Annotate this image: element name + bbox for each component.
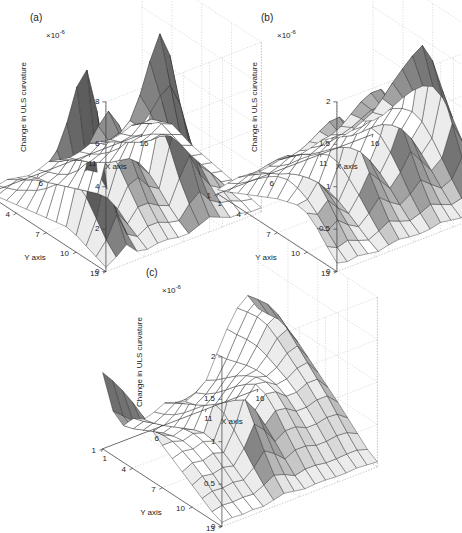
panel-c-ytick: 1: [92, 446, 96, 455]
panel-c-ztick: 1.5: [204, 394, 215, 403]
panel-b-ztick: 2: [326, 97, 330, 106]
panel-a-xtick: 11: [88, 159, 96, 168]
panel-a-xtick: 16: [140, 139, 149, 148]
panel-a-ytick: 13: [90, 269, 99, 278]
panel-c-ytick: 10: [176, 504, 185, 513]
panel-a: (a) ×10-6 Change in ULS curvature 024681…: [0, 0, 231, 232]
panel-c-yaxis-label: Y axis: [140, 508, 162, 517]
panel-b-exponent: ×10-6: [277, 29, 296, 40]
panel-c-ytick: 13: [206, 524, 215, 533]
panel-b-ztick: 1.5: [319, 139, 330, 148]
panel-c-label: (c): [146, 267, 158, 278]
panel-c-xtick: 6: [154, 434, 158, 443]
exponent-base: ×10: [162, 286, 176, 295]
panel-b-xtick: 16: [371, 139, 380, 148]
panel-a-ztick: 4: [95, 182, 99, 191]
panel-b-ytick: 1: [207, 191, 211, 200]
exponent-power: -6: [60, 29, 65, 35]
panel-a-ztick: 2: [95, 224, 99, 233]
panel-a-ztick: 8: [95, 97, 99, 106]
panel-b: (b) ×10-6 Change in ULS curvature 00.511…: [231, 0, 462, 232]
panel-b-ztick: 0.5: [319, 224, 330, 233]
panel-a-ytick: 4: [5, 210, 9, 219]
panel-c-ytick: 7: [151, 485, 155, 494]
panel-a-zaxis-label: Change in ULS curvature: [19, 62, 28, 152]
exponent-power: -6: [291, 29, 296, 35]
panel-b-label: (b): [261, 12, 273, 23]
panel-a-label: (a): [30, 12, 42, 23]
panel-a-ytick: 7: [35, 230, 39, 239]
panel-a-yaxis-label: Y axis: [24, 253, 46, 262]
panel-b-zaxis-label: Change in ULS curvature: [250, 62, 259, 152]
panel-c-ztick: 2: [211, 352, 215, 361]
exponent-base: ×10: [46, 31, 60, 40]
panel-c-ztick: 1: [211, 437, 215, 446]
panel-c-plot: [116, 255, 347, 487]
exponent-base: ×10: [277, 31, 291, 40]
panel-b-xtick: 11: [319, 159, 327, 168]
panel-b-ytick: 4: [236, 210, 240, 219]
panel-b-plot: [231, 0, 462, 232]
panel-a-exponent: ×10-6: [46, 29, 65, 40]
panel-c-ztick: 0.5: [204, 479, 215, 488]
panel-c-xtick: 16: [256, 394, 265, 403]
panel-c-xtick: 11: [204, 414, 212, 423]
panel-a-xtick: 6: [38, 179, 42, 188]
panel-b-ztick: 1: [326, 182, 330, 191]
panel-b-xaxis-label: X axis: [336, 162, 358, 171]
panel-c-xtick: 1: [103, 454, 107, 463]
panel-a-ytick: 10: [60, 249, 69, 258]
panel-c-ytick: 4: [121, 465, 125, 474]
panel-a-plot: [0, 0, 231, 232]
panel-b-ytick: 7: [266, 230, 270, 239]
exponent-power: -6: [176, 284, 181, 290]
panel-c: (c) ×10-6 Change in ULS curvature 00.511…: [116, 255, 347, 487]
panel-c-zaxis-label: Change in ULS curvature: [135, 317, 144, 407]
panel-c-xaxis-label: X axis: [221, 417, 243, 426]
panel-c-exponent: ×10-6: [162, 284, 181, 295]
panel-a-ztick: 6: [95, 139, 99, 148]
panel-b-xtick: 1: [218, 199, 222, 208]
panel-a-xaxis-label: X axis: [105, 162, 127, 171]
panel-b-xtick: 6: [269, 179, 273, 188]
